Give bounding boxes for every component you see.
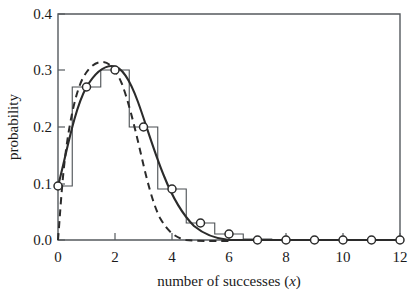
data-point-x2	[111, 66, 119, 74]
data-point-x1	[83, 83, 91, 91]
data-point-x10	[339, 236, 347, 244]
data-point-x11	[368, 236, 376, 244]
x-axis-title: number of successes (x)	[157, 273, 301, 290]
y-tick-label-0.2: 0.2	[33, 119, 52, 135]
x-tick-label-6: 6	[225, 249, 233, 265]
svg-text:number of successes (x): number of successes (x)	[157, 273, 301, 290]
x-tick-label-0: 0	[54, 249, 62, 265]
data-point-x7	[254, 236, 262, 244]
x-tick-label-8: 8	[282, 249, 290, 265]
binomial-solid-curve	[58, 66, 264, 240]
data-point-x8	[282, 236, 290, 244]
data-point-x5	[197, 219, 205, 227]
chart-figure: 0.4 0.3 0.2 0.1 0.0 0 2 4 6 8 10 12 numb…	[0, 0, 415, 299]
y-tick-label-0.3: 0.3	[33, 62, 52, 78]
data-point-x9	[311, 236, 319, 244]
data-point-x12	[396, 236, 404, 244]
histogram-step-outline	[58, 70, 272, 240]
y-tick-label-0.0: 0.0	[33, 232, 52, 248]
data-point-x6	[225, 230, 233, 238]
x-tick-label-4: 4	[168, 249, 176, 265]
y-axis-ticks	[58, 14, 65, 240]
x-axis-tick-labels: 0 2 4 6 8 10 12	[54, 249, 407, 265]
y-axis-tick-labels: 0.4 0.3 0.2 0.1 0.0	[33, 6, 52, 248]
y-tick-label-0.4: 0.4	[33, 6, 52, 22]
data-point-x0	[54, 182, 62, 190]
y-tick-label-0.1: 0.1	[33, 176, 52, 192]
x-tick-label-2: 2	[111, 249, 119, 265]
data-point-x3	[140, 123, 148, 131]
data-point-x4	[168, 185, 176, 193]
x-axis-title-close: )	[296, 273, 301, 290]
x-axis-title-main: number of successes (	[157, 273, 289, 290]
data-point-markers	[54, 66, 404, 244]
x-tick-label-12: 12	[393, 249, 408, 265]
x-tick-label-10: 10	[336, 249, 351, 265]
y-axis-title: probability	[5, 94, 21, 160]
chart-plot-svg: 0.4 0.3 0.2 0.1 0.0 0 2 4 6 8 10 12 numb…	[0, 0, 415, 299]
plot-frame	[58, 14, 400, 240]
